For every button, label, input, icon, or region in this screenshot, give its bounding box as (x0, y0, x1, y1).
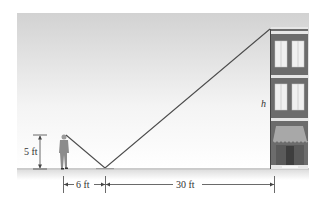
ground (17, 168, 309, 180)
label-person-height: 5 ft (24, 147, 38, 157)
label-building-height: h (261, 99, 266, 109)
diagram-canvas (0, 0, 324, 205)
door (286, 146, 294, 166)
mirror (96, 168, 114, 169)
awning (273, 126, 307, 141)
label-mirror-to-building: 30 ft (176, 180, 195, 190)
label-person-to-mirror: 6 ft (76, 180, 90, 190)
building (271, 27, 309, 169)
